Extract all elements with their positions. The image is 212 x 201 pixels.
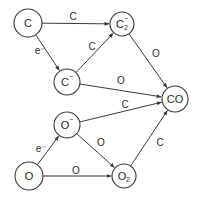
edge-arrow: [42, 23, 109, 24]
node-label: C: [116, 18, 124, 30]
node-CO: CO: [162, 86, 188, 112]
node-O2: O2: [112, 164, 136, 188]
edge-O-to-Om: e⁻: [36, 136, 59, 165]
node-label: C: [24, 17, 32, 29]
node-label: CO: [167, 93, 184, 105]
node-charge-superscript: −: [69, 73, 73, 80]
edge-Cm-to-C2m: C: [76, 33, 113, 72]
edge-label: C: [69, 11, 76, 22]
edge-arrow: [80, 84, 161, 97]
edge-label: O: [72, 165, 80, 176]
node-O: O: [15, 162, 43, 190]
edge-O2-to-CO: C: [131, 111, 168, 166]
edge-label: C: [88, 41, 95, 52]
edge-arrow: [129, 34, 167, 88]
nodes-layer: CC−2C−O−OO2CO: [14, 9, 188, 190]
edge-label: C: [121, 99, 128, 110]
edges-layer: Ce⁻COOCe⁻OOC: [35, 11, 168, 177]
edge-Om-to-O2: O: [77, 134, 115, 168]
reaction-network-diagram: Ce⁻COOCe⁻OOC CC−2C−O−OO2CO: [0, 0, 212, 201]
node-charge-superscript: −: [124, 15, 128, 22]
edge-label: C: [156, 137, 163, 148]
node-charge-superscript: −: [69, 116, 73, 123]
node-label: C: [61, 76, 69, 88]
edge-label: e⁻: [35, 45, 46, 56]
edge-Cm-to-CO: O: [80, 75, 161, 97]
edge-label: O: [117, 75, 125, 86]
edge-Om-to-CO: C: [80, 99, 162, 122]
edge-O-to-O2: O: [43, 165, 111, 177]
edge-label: O: [152, 48, 160, 59]
node-subscript: 2: [124, 24, 128, 31]
node-Om: O−: [54, 112, 80, 138]
edge-C-to-Cm: e⁻: [35, 35, 60, 71]
edge-C2m-to-CO: O: [129, 34, 167, 88]
edge-C-to-C2m: C: [42, 11, 109, 24]
node-subscript: 2: [126, 176, 130, 183]
node-C: C: [14, 9, 42, 37]
node-C2m: C−2: [110, 12, 134, 36]
node-Cm: C−: [54, 69, 80, 95]
edge-arrow: [76, 33, 113, 72]
edge-label: e⁻: [36, 143, 47, 154]
edge-arrow: [77, 134, 115, 168]
edge-label: O: [97, 137, 105, 148]
node-label: O: [25, 170, 34, 182]
